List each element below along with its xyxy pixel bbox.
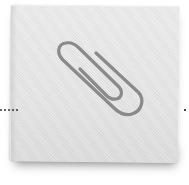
connector-dot bbox=[8, 109, 10, 111]
connector-dots-left bbox=[0, 109, 18, 112]
note-edge-highlight bbox=[11, 6, 17, 162]
paperclip-icon bbox=[52, 40, 148, 122]
connector-dot bbox=[16, 109, 18, 111]
connector-dot bbox=[12, 109, 14, 111]
connector-dot bbox=[0, 109, 2, 111]
connector-dot-right bbox=[184, 109, 186, 111]
connector-dot bbox=[4, 109, 6, 111]
sticky-note-card[interactable] bbox=[0, 0, 189, 185]
